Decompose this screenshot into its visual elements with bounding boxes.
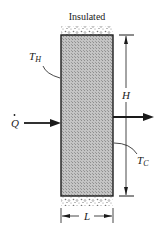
- heat-conduction-diagram: Insulated Q H L TH TC: [0, 0, 162, 229]
- heat-in-arrow: [24, 119, 61, 127]
- cold-temp-leader: [114, 143, 137, 154]
- length-label: L: [83, 210, 90, 222]
- dot-icon: [14, 114, 16, 116]
- hot-temp-leader: [43, 66, 60, 78]
- height-label: H: [121, 89, 131, 101]
- heat-flow-label: Q: [11, 117, 19, 129]
- hot-temp-label: TH: [29, 50, 42, 64]
- insulated-label: Insulated: [69, 11, 106, 22]
- cold-temp-label: TC: [137, 154, 149, 168]
- slab: [61, 35, 113, 196]
- top-insulation: [61, 26, 113, 35]
- height-dimension: [119, 35, 134, 196]
- heat-out-arrow: [113, 113, 154, 121]
- bottom-insulation: [61, 197, 113, 206]
